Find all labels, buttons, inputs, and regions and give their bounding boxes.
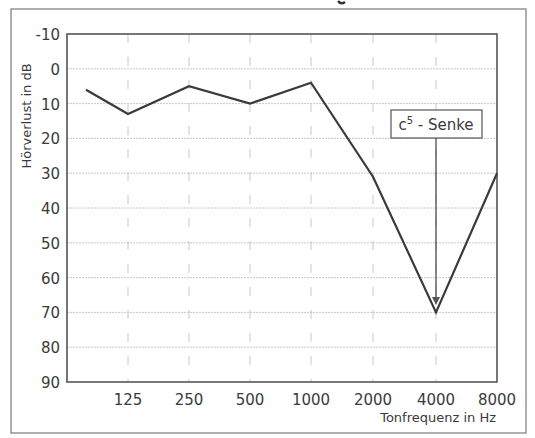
x-tick-label: 2000: [354, 391, 392, 409]
y-tick-label: 40: [41, 200, 60, 218]
x-axis-label: Tonfrequenz in Hz: [379, 410, 496, 425]
y-tick-label: 90: [41, 374, 60, 392]
y-axis-label: Hörverlust in dB: [19, 63, 34, 168]
y-tick-label: -10: [36, 26, 61, 44]
y-tick-label: 60: [41, 270, 60, 288]
x-axis-ticks: 1252505001000200040008000: [114, 391, 516, 409]
grid-lines: [67, 34, 497, 382]
y-tick-label: 0: [50, 61, 60, 79]
y-tick-label: 30: [41, 165, 60, 183]
y-tick-label: 20: [41, 130, 60, 148]
y-axis-ticks: -100102030405060708090: [36, 26, 61, 392]
x-tick-label: 125: [114, 391, 143, 409]
y-tick-label: 80: [41, 339, 60, 357]
x-tick-label: 1000: [292, 391, 330, 409]
y-tick-label: 70: [41, 304, 60, 322]
x-tick-label: 8000: [478, 391, 516, 409]
y-tick-label: 50: [41, 235, 60, 253]
outer-frame: [11, 9, 526, 433]
cropped-title-fragment: [338, 1, 345, 3]
x-tick-label: 250: [175, 391, 204, 409]
x-tick-label: 500: [236, 391, 265, 409]
x-tick-label: 4000: [417, 391, 455, 409]
y-tick-label: 10: [41, 96, 60, 114]
audiogram-chart: -100102030405060708090 12525050010002000…: [0, 0, 535, 438]
